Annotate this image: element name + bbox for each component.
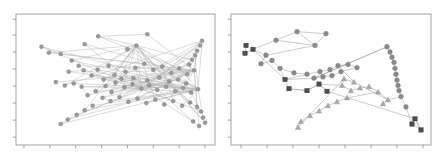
data-point-circle bbox=[113, 73, 117, 77]
graph-edge bbox=[194, 70, 199, 126]
data-point-circle bbox=[47, 51, 51, 55]
data-point-triangle bbox=[375, 89, 380, 94]
edge-layer bbox=[41, 34, 205, 126]
data-point-circle bbox=[193, 53, 197, 57]
data-point-circle bbox=[107, 64, 111, 68]
data-point-circle bbox=[393, 66, 398, 71]
data-point-circle bbox=[144, 101, 148, 105]
data-point-circle bbox=[181, 86, 185, 90]
data-point-circle bbox=[142, 62, 146, 66]
data-point-square bbox=[243, 51, 247, 55]
data-point-circle bbox=[90, 74, 94, 78]
data-point-square bbox=[305, 88, 309, 92]
graph-edge bbox=[266, 45, 315, 55]
data-point-circle bbox=[153, 98, 157, 102]
data-point-circle bbox=[145, 78, 149, 82]
data-point-circle bbox=[160, 64, 164, 68]
data-point-circle bbox=[155, 88, 159, 92]
data-point-circle bbox=[75, 113, 79, 117]
graph-edge bbox=[69, 70, 84, 71]
data-point-circle bbox=[96, 68, 100, 72]
data-point-circle bbox=[91, 104, 95, 108]
data-point-circle bbox=[292, 71, 297, 76]
data-point-circle bbox=[385, 44, 390, 49]
data-point-circle bbox=[104, 84, 108, 88]
graph-edge bbox=[253, 40, 276, 49]
data-point-circle bbox=[86, 93, 90, 97]
data-point-circle bbox=[313, 43, 318, 48]
graph-edge bbox=[289, 89, 307, 91]
data-point-circle bbox=[94, 89, 98, 93]
data-point-triangle bbox=[334, 99, 339, 104]
data-point-circle bbox=[96, 34, 100, 38]
data-point-circle bbox=[83, 42, 87, 46]
data-point-circle bbox=[109, 99, 113, 103]
graph-edge bbox=[297, 32, 326, 34]
data-point-circle bbox=[192, 68, 196, 72]
data-point-circle bbox=[388, 50, 393, 55]
data-point-circle bbox=[392, 60, 397, 65]
data-point-circle bbox=[295, 29, 300, 34]
data-point-circle bbox=[135, 96, 139, 100]
graph-edge bbox=[354, 82, 388, 100]
data-point-circle bbox=[305, 72, 310, 77]
data-point-circle bbox=[114, 81, 118, 85]
data-point-circle bbox=[195, 49, 199, 53]
plot-frame bbox=[16, 14, 215, 145]
data-point-circle bbox=[101, 96, 105, 100]
data-point-circle bbox=[164, 85, 168, 89]
data-point-circle bbox=[126, 100, 130, 104]
data-point-circle bbox=[83, 108, 87, 112]
data-point-circle bbox=[119, 77, 123, 81]
data-point-square bbox=[244, 43, 248, 47]
data-point-circle bbox=[59, 122, 63, 126]
graph-edge bbox=[253, 49, 285, 79]
data-point-circle bbox=[77, 64, 81, 68]
data-point-circle bbox=[169, 71, 173, 75]
data-point-circle bbox=[321, 74, 326, 79]
graph-edge bbox=[61, 89, 198, 124]
data-point-circle bbox=[270, 58, 275, 63]
data-point-square bbox=[283, 77, 287, 81]
data-point-circle bbox=[54, 80, 58, 84]
data-point-circle bbox=[173, 89, 177, 93]
data-point-circle bbox=[197, 124, 201, 128]
data-point-circle bbox=[134, 43, 138, 47]
data-point-circle bbox=[394, 72, 399, 77]
data-point-triangle bbox=[341, 76, 346, 81]
data-point-circle bbox=[139, 87, 143, 91]
data-point-circle bbox=[274, 38, 279, 43]
data-point-triangle bbox=[325, 103, 330, 108]
data-point-circle bbox=[200, 39, 204, 43]
data-point-circle bbox=[117, 95, 121, 99]
data-point-circle bbox=[399, 94, 404, 99]
right-plot-canvas bbox=[222, 0, 445, 159]
data-point-circle bbox=[39, 45, 43, 49]
data-point-circle bbox=[157, 76, 161, 80]
data-point-circle bbox=[355, 65, 360, 70]
data-point-circle bbox=[151, 68, 155, 72]
data-point-circle bbox=[147, 83, 151, 87]
data-point-circle bbox=[177, 66, 181, 70]
graph-edge bbox=[314, 47, 387, 78]
graph-edge bbox=[98, 34, 147, 36]
data-point-circle bbox=[328, 67, 333, 72]
data-point-square bbox=[413, 117, 417, 121]
data-point-circle bbox=[336, 63, 341, 68]
data-point-square bbox=[325, 89, 329, 93]
data-point-circle bbox=[396, 83, 401, 88]
graph-edge bbox=[198, 41, 202, 89]
data-point-circle bbox=[189, 91, 193, 95]
data-point-circle bbox=[395, 78, 400, 83]
data-point-circle bbox=[102, 78, 106, 82]
data-point-circle bbox=[171, 99, 175, 103]
data-point-square bbox=[419, 128, 423, 132]
data-point-circle bbox=[199, 110, 203, 114]
data-point-circle bbox=[130, 82, 134, 86]
data-point-circle bbox=[145, 32, 149, 36]
marker-layer bbox=[243, 29, 423, 132]
data-point-circle bbox=[259, 61, 264, 66]
data-point-circle bbox=[404, 105, 409, 110]
data-point-triangle bbox=[298, 119, 303, 124]
graph-edge bbox=[276, 32, 297, 41]
